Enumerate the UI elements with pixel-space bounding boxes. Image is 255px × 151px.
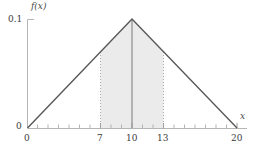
- y-tick-label-0: 0: [16, 122, 22, 131]
- x-axis-title: x: [240, 112, 245, 121]
- x-tick-label-0: 0: [24, 134, 30, 143]
- x-tick-label-13: 13: [157, 134, 168, 143]
- x-tick-label-7: 7: [97, 134, 103, 143]
- chart-figure: f(x) x 0.1 0 0 7 10 13 20: [0, 0, 255, 151]
- x-tick-label-20: 20: [231, 134, 242, 143]
- y-tick-label-0.1: 0.1: [8, 15, 22, 24]
- x-tick-label-10: 10: [126, 134, 137, 143]
- triangular-distribution-plot: [0, 0, 255, 151]
- y-axis-title: f(x): [31, 2, 46, 11]
